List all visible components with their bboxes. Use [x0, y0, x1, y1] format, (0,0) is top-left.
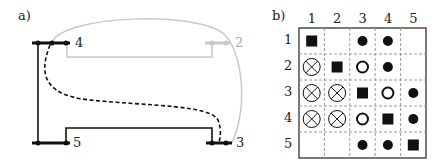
cell-square-icon — [408, 140, 419, 151]
row-header: 5 — [284, 136, 292, 151]
cell-ring-icon — [357, 114, 368, 125]
cell-dot-icon — [408, 114, 418, 124]
row-header: 2 — [284, 58, 292, 73]
cell-crossed-circle-icon — [303, 111, 320, 128]
col-header: 2 — [333, 11, 341, 26]
cell-square-icon — [332, 62, 343, 73]
col-header: 3 — [359, 11, 367, 26]
panel-a-diagram — [0, 0, 444, 167]
row-header: 1 — [284, 32, 292, 47]
cell-crossed-circle-icon — [329, 85, 346, 102]
node-3-label: 3 — [236, 135, 244, 150]
cell-square-icon — [382, 114, 393, 125]
cell-dot-icon — [383, 140, 393, 150]
cell-ring-icon — [382, 88, 393, 99]
cell-ring-icon — [357, 62, 368, 73]
cell-square-icon — [306, 36, 317, 47]
col-header: 5 — [409, 11, 417, 26]
cell-square-icon — [357, 88, 368, 99]
col-header: 1 — [308, 11, 316, 26]
cell-dot-icon — [408, 88, 418, 98]
row-header: 3 — [284, 84, 292, 99]
cell-crossed-circle-icon — [329, 111, 346, 128]
cell-dot-icon — [358, 36, 368, 46]
node-2-label: 2 — [235, 35, 243, 50]
panel-a-label: a) — [18, 8, 31, 23]
row-header: 4 — [284, 110, 292, 125]
col-header: 4 — [384, 11, 392, 26]
node-5-label: 5 — [73, 135, 81, 150]
panel-b-matrix — [299, 28, 426, 158]
panel-b-label: b) — [272, 8, 285, 23]
cell-dot-icon — [358, 140, 368, 150]
cell-crossed-circle-icon — [303, 59, 320, 76]
cell-crossed-circle-icon — [303, 85, 320, 102]
node-4-label: 4 — [75, 35, 83, 50]
cell-dot-icon — [383, 36, 393, 46]
cell-dot-icon — [383, 62, 393, 72]
